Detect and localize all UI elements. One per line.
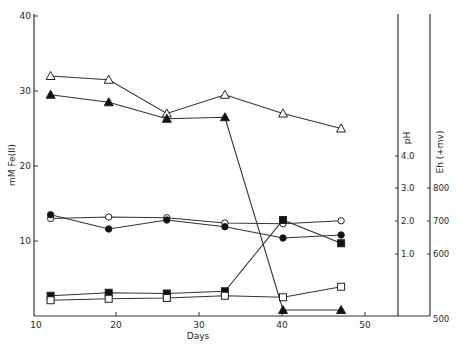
x-tick-50: 50 xyxy=(359,320,371,330)
data-point-square-filled xyxy=(338,240,345,247)
series-triangle-open xyxy=(46,72,346,133)
y-tick-labels: 40 30 20 10 xyxy=(20,11,32,246)
x-tick-10: 10 xyxy=(30,320,42,330)
eh-tick-700: 700 xyxy=(433,216,449,226)
x-tick-labels: 10 20 30 40 50 xyxy=(30,320,371,330)
data-point-square-open xyxy=(105,295,112,302)
data-point-triangle-open xyxy=(220,90,229,98)
y-tick-30: 30 xyxy=(20,86,32,96)
data-point-circle-filled xyxy=(280,235,286,241)
data-point-square-open xyxy=(163,295,170,302)
data-point-triangle-filled xyxy=(46,90,55,98)
eh-tick-500: 500 xyxy=(433,314,449,324)
eh-axis-label: Eh (+mv) xyxy=(435,131,445,174)
data-point-square-open xyxy=(221,292,228,299)
data-point-circle-filled xyxy=(47,212,53,218)
data-point-square-open xyxy=(280,294,287,301)
eh-tick-labels: 800 700 600 500 xyxy=(433,183,449,324)
ph-tick-labels: 4.0 3.0 2.0 1.0 xyxy=(401,151,415,259)
data-point-circle-open xyxy=(338,218,344,224)
data-point-square-filled xyxy=(280,217,287,224)
series-triangle-filled xyxy=(46,90,346,313)
data-point-circle-filled xyxy=(164,217,170,223)
y-tick-40: 40 xyxy=(20,11,32,21)
x-axis-label: Days xyxy=(187,331,210,341)
ph-tick-3: 3.0 xyxy=(401,183,415,193)
x-tick-30: 30 xyxy=(193,320,205,330)
y-axis-label: mM Fe(II) xyxy=(7,144,17,186)
series-square-filled xyxy=(47,217,345,300)
data-point-circle-filled xyxy=(222,224,228,230)
y-tick-20: 20 xyxy=(20,161,32,171)
axes xyxy=(34,14,430,316)
data-point-circle-filled xyxy=(106,226,112,232)
data-point-circle-open xyxy=(106,214,112,220)
fe-ph-eh-chart: 40 30 20 10 mM Fe(II) 10 20 30 40 50 Day… xyxy=(0,0,460,346)
ph-tick-2: 2.0 xyxy=(401,216,415,226)
data-point-triangle-open xyxy=(46,72,55,80)
eh-tick-600: 600 xyxy=(433,249,449,259)
y-tick-10: 10 xyxy=(20,236,32,246)
x-tick-40: 40 xyxy=(276,320,288,330)
data-point-square-open xyxy=(338,283,345,290)
data-point-triangle-filled xyxy=(220,113,229,121)
data-point-square-open xyxy=(47,297,54,304)
data-point-circle-filled xyxy=(338,232,344,238)
ph-tick-4: 4.0 xyxy=(401,151,415,161)
ph-axis-label: pH xyxy=(402,132,412,144)
eh-tick-800: 800 xyxy=(433,183,449,193)
series-layer xyxy=(46,72,346,314)
ph-tick-1: 1.0 xyxy=(401,249,415,259)
x-tick-20: 20 xyxy=(110,320,122,330)
